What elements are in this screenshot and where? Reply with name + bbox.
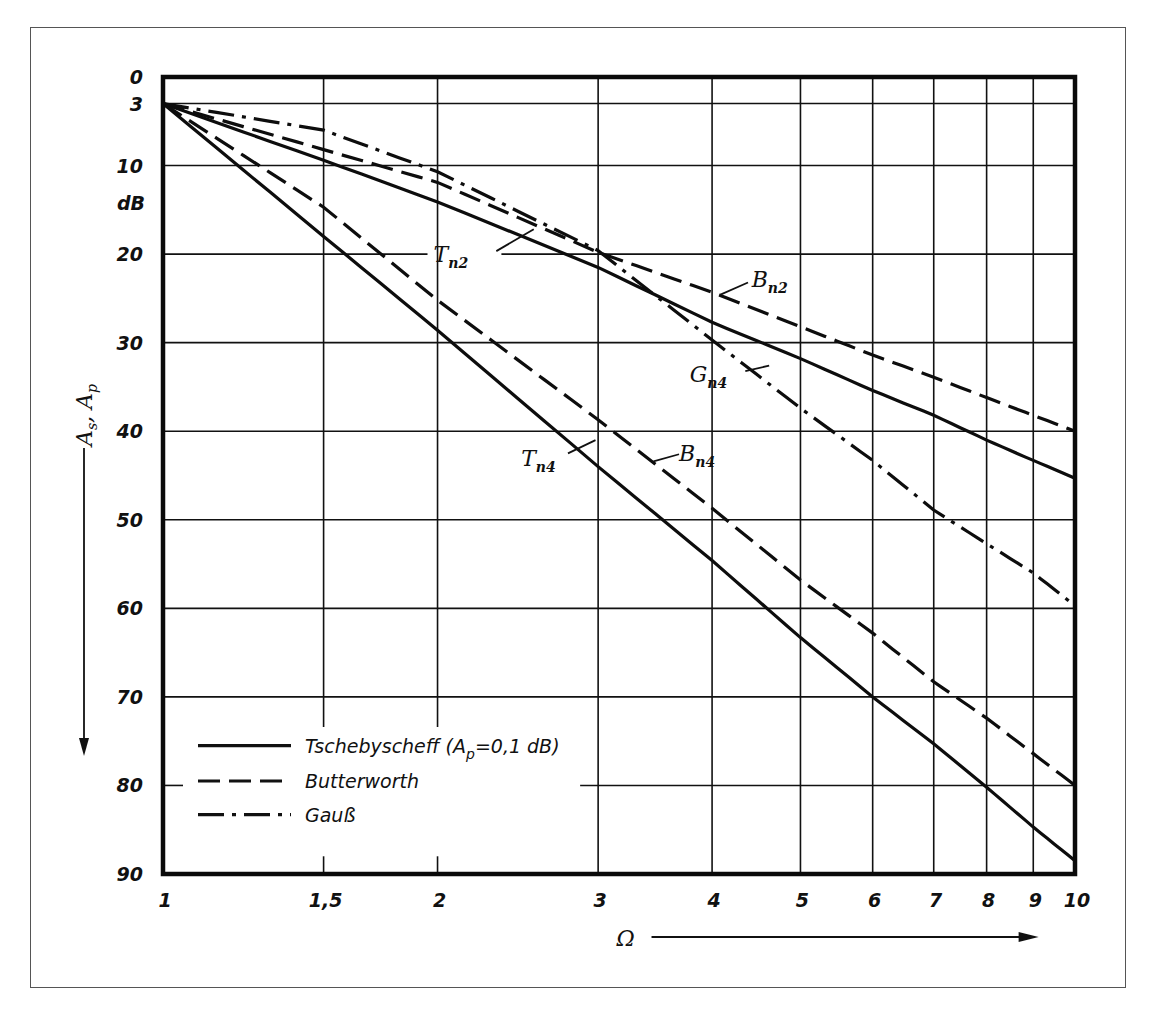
curve-label-tn4: Tn4 bbox=[521, 446, 556, 475]
curve-tn4 bbox=[163, 104, 1075, 861]
y-tick-label: 20 bbox=[117, 243, 143, 265]
grid bbox=[163, 77, 1075, 874]
curve-gn4 bbox=[163, 104, 1075, 606]
x-axis-arrow-head bbox=[1019, 932, 1039, 942]
x-tick-label: 3 bbox=[594, 889, 607, 911]
y-tick-label: 10 bbox=[117, 155, 143, 177]
y-tick-label: 80 bbox=[117, 774, 143, 796]
y-unit-label: dB bbox=[117, 192, 145, 214]
x-tick-label: 1,5 bbox=[309, 889, 343, 911]
y-tick-label: 60 bbox=[117, 597, 143, 619]
y-tick-label: 3 bbox=[130, 93, 143, 115]
x-tick-label: 10 bbox=[1064, 889, 1090, 911]
attenuation-chart: 0310203040506070809011,52345678910dBAs, … bbox=[0, 0, 1149, 1011]
x-tick-label: 6 bbox=[868, 889, 881, 911]
y-tick-label: 70 bbox=[117, 686, 143, 708]
legend-label: Gauß bbox=[305, 804, 355, 826]
axes: 0310203040506070809011,52345678910dBAs, … bbox=[72, 66, 1090, 951]
curve-labels: Tn2Tn4Bn2Bn4Gn4 bbox=[434, 229, 788, 474]
x-tick-label: 7 bbox=[929, 889, 943, 911]
curve-label-leader bbox=[653, 454, 679, 461]
y-tick-label: 30 bbox=[117, 332, 143, 354]
curve-label-bn4: Bn4 bbox=[678, 441, 715, 470]
curve-bn4 bbox=[163, 104, 1075, 786]
x-tick-label: 8 bbox=[982, 889, 995, 911]
plot-border bbox=[163, 77, 1075, 874]
curve-label-tn2: Tn2 bbox=[434, 242, 469, 271]
x-tick-label: 5 bbox=[796, 889, 809, 911]
y-axis-arrow-head bbox=[79, 738, 89, 756]
y-tick-label: 90 bbox=[117, 863, 143, 885]
y-tick-label: 50 bbox=[117, 509, 143, 531]
x-tick-label: 1 bbox=[158, 889, 171, 911]
curve-label-bn2: Bn2 bbox=[751, 267, 788, 296]
y-axis-title: As, Ap bbox=[72, 384, 100, 448]
curve-tn2 bbox=[163, 104, 1075, 479]
x-tick-label: 2 bbox=[433, 889, 446, 911]
y-tick-label: 0 bbox=[130, 66, 143, 88]
x-axis-title: Ω bbox=[616, 926, 635, 951]
legend-label: Butterworth bbox=[305, 770, 419, 792]
legend-label: Tschebyscheff (Ap=0,1 dB) bbox=[305, 735, 560, 762]
curves bbox=[163, 104, 1075, 861]
x-tick-label: 9 bbox=[1029, 889, 1042, 911]
curve-label-leader bbox=[720, 282, 748, 294]
curve-label-gn4: Gn4 bbox=[690, 362, 728, 391]
y-tick-label: 40 bbox=[116, 420, 143, 442]
legend: Tschebyscheff (Ap=0,1 dB)ButterworthGauß bbox=[198, 735, 560, 826]
x-tick-label: 4 bbox=[706, 889, 720, 911]
